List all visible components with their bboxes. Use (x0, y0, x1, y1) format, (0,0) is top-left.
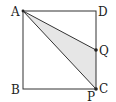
geometry-diagram: A D Q B C P (0, 0, 116, 102)
label-p: P (87, 90, 95, 102)
point-q-dot (94, 48, 98, 52)
label-a: A (10, 5, 20, 19)
label-d: D (98, 5, 108, 19)
point-a-dot (22, 10, 25, 13)
label-c: C (99, 82, 108, 96)
label-b: B (11, 83, 20, 97)
label-q: Q (99, 44, 109, 58)
